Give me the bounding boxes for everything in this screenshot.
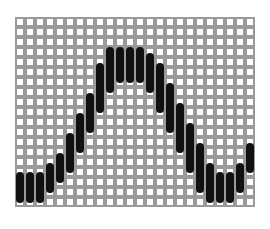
grid-cell[interactable] [65, 97, 75, 107]
grid-cell[interactable] [15, 37, 25, 47]
grid-cell[interactable] [25, 157, 35, 167]
grid-cell[interactable] [195, 47, 205, 57]
grid-cell[interactable] [45, 87, 55, 97]
grid-cell[interactable] [55, 107, 65, 117]
grid-cell[interactable] [225, 57, 235, 67]
grid-cell[interactable] [25, 27, 35, 37]
grid-cell[interactable] [95, 47, 105, 57]
grid-cell[interactable] [25, 57, 35, 67]
grid-cell[interactable] [115, 197, 125, 207]
grid-cell[interactable] [215, 107, 225, 117]
grid-cell[interactable] [245, 77, 255, 87]
grid-cell[interactable] [35, 157, 45, 167]
grid-cell[interactable] [225, 37, 235, 47]
grid-cell[interactable] [85, 167, 95, 177]
grid-cell[interactable] [115, 107, 125, 117]
grid-cell[interactable] [105, 197, 115, 207]
grid-cell[interactable] [235, 197, 245, 207]
grid-cell[interactable] [195, 197, 205, 207]
grid-cell[interactable] [95, 117, 105, 127]
grid-cell[interactable] [125, 167, 135, 177]
grid-cell[interactable] [65, 197, 75, 207]
grid-cell[interactable] [115, 17, 125, 27]
grid-cell[interactable] [75, 177, 85, 187]
grid-cell[interactable] [225, 77, 235, 87]
grid-cell[interactable] [65, 117, 75, 127]
grid-cell[interactable] [75, 157, 85, 167]
grid-cell[interactable] [95, 137, 105, 147]
grid-cell[interactable] [25, 117, 35, 127]
grid-cell[interactable] [115, 157, 125, 167]
grid-cell[interactable] [245, 177, 255, 187]
grid-cell[interactable] [65, 87, 75, 97]
grid-cell[interactable] [25, 37, 35, 47]
grid-cell[interactable] [95, 17, 105, 27]
grid-cell[interactable] [35, 147, 45, 157]
grid-cell[interactable] [25, 67, 35, 77]
grid-cell[interactable] [155, 167, 165, 177]
grid-cell[interactable] [185, 47, 195, 57]
grid-cell[interactable] [205, 17, 215, 27]
grid-cell[interactable] [55, 117, 65, 127]
grid-cell[interactable] [125, 197, 135, 207]
grid-cell[interactable] [45, 97, 55, 107]
grid-cell[interactable] [245, 187, 255, 197]
grid-cell[interactable] [145, 117, 155, 127]
grid-cell[interactable] [205, 57, 215, 67]
grid-cell[interactable] [145, 167, 155, 177]
grid-cell[interactable] [245, 67, 255, 77]
grid-cell[interactable] [125, 87, 135, 97]
grid-cell[interactable] [135, 87, 145, 97]
grid-cell[interactable] [65, 177, 75, 187]
grid-cell[interactable] [145, 17, 155, 27]
grid-cell[interactable] [115, 177, 125, 187]
grid-cell[interactable] [225, 117, 235, 127]
grid-cell[interactable] [115, 167, 125, 177]
grid-cell[interactable] [135, 117, 145, 127]
grid-cell[interactable] [135, 37, 145, 47]
grid-cell[interactable] [25, 97, 35, 107]
grid-cell[interactable] [35, 117, 45, 127]
grid-cell[interactable] [45, 107, 55, 117]
grid-cell[interactable] [125, 17, 135, 27]
grid-cell[interactable] [115, 127, 125, 137]
grid-cell[interactable] [175, 77, 185, 87]
grid-cell[interactable] [15, 17, 25, 27]
grid-cell[interactable] [65, 107, 75, 117]
grid-cell[interactable] [155, 137, 165, 147]
grid-cell[interactable] [175, 167, 185, 177]
grid-cell[interactable] [215, 97, 225, 107]
grid-cell[interactable] [205, 127, 215, 137]
grid-cell[interactable] [85, 77, 95, 87]
grid-cell[interactable] [135, 137, 145, 147]
grid-cell[interactable] [245, 17, 255, 27]
grid-cell[interactable] [95, 157, 105, 167]
grid-cell[interactable] [165, 197, 175, 207]
grid-cell[interactable] [85, 17, 95, 27]
grid-cell[interactable] [165, 147, 175, 157]
grid-cell[interactable] [35, 107, 45, 117]
grid-cell[interactable] [135, 107, 145, 117]
grid-cell[interactable] [125, 137, 135, 147]
grid-cell[interactable] [205, 107, 215, 117]
grid-cell[interactable] [135, 187, 145, 197]
grid-cell[interactable] [125, 97, 135, 107]
grid-cell[interactable] [195, 77, 205, 87]
grid-cell[interactable] [155, 157, 165, 167]
grid-cell[interactable] [135, 177, 145, 187]
grid-cell[interactable] [105, 167, 115, 177]
grid-cell[interactable] [245, 107, 255, 117]
grid-cell[interactable] [155, 147, 165, 157]
grid-cell[interactable] [235, 97, 245, 107]
grid-cell[interactable] [85, 177, 95, 187]
grid-cell[interactable] [15, 147, 25, 157]
grid-cell[interactable] [235, 37, 245, 47]
grid-cell[interactable] [55, 67, 65, 77]
grid-cell[interactable] [235, 77, 245, 87]
grid-cell[interactable] [235, 127, 245, 137]
grid-cell[interactable] [235, 57, 245, 67]
grid-cell[interactable] [85, 197, 95, 207]
grid-cell[interactable] [245, 87, 255, 97]
grid-cell[interactable] [75, 67, 85, 77]
grid-cell[interactable] [205, 97, 215, 107]
